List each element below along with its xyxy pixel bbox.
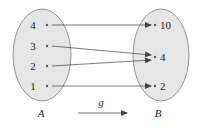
svg-text:1: 1 xyxy=(30,80,36,92)
svg-text:3: 3 xyxy=(30,40,36,52)
set-a-label: A xyxy=(37,107,45,119)
set-a-ellipse xyxy=(13,9,71,101)
svg-text:2: 2 xyxy=(30,60,36,72)
function-label: g xyxy=(98,96,104,108)
mapping-diagram: 4 3 2 1 10 4 2 A B g xyxy=(0,0,197,128)
svg-text:10: 10 xyxy=(160,19,172,31)
svg-text:4: 4 xyxy=(30,19,36,31)
svg-text:2: 2 xyxy=(160,80,166,92)
svg-text:4: 4 xyxy=(160,51,166,63)
set-b-label: B xyxy=(155,107,162,119)
